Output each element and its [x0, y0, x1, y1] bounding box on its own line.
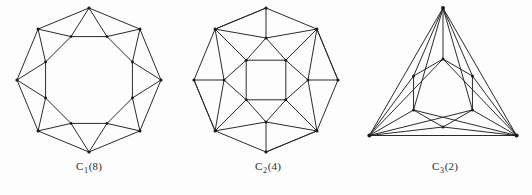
antiprism-edge [132, 80, 161, 98]
graph-vertex [515, 134, 519, 138]
antiprism-edge [89, 123, 107, 152]
graph-vertex [284, 59, 287, 62]
corner-fan-edge [443, 127, 517, 136]
figure-3-cell: C3(2) [358, 0, 532, 195]
figure-2-cell: C2(4) [178, 0, 358, 195]
middle-inner-edge [224, 60, 246, 80]
outer-octagon-edge [266, 8, 317, 29]
graph-vertex [264, 150, 267, 153]
antiprism-edge [38, 29, 71, 36]
outer-triangle-edge [369, 8, 443, 136]
graph-vertex [36, 27, 39, 30]
corner-long-fan-edge [443, 8, 472, 110]
figure-3-caption: C3(2) [358, 160, 532, 175]
middle-inner-edge [246, 100, 266, 122]
corner-spoke-edge [472, 110, 516, 136]
antiprism-edge [89, 8, 107, 37]
antiprism-edge [107, 123, 140, 130]
figure-1-graph [0, 0, 178, 160]
graph-vertex [87, 6, 90, 9]
corner-fan-edge [369, 127, 443, 136]
antiprism-edge [38, 29, 45, 62]
inner-hexagon-edge [414, 59, 443, 76]
inner-hexagon-edge [443, 59, 472, 76]
outer-octagon-edge [38, 8, 89, 29]
graph-vertex [213, 129, 216, 132]
corner-long-fan-edge [369, 59, 443, 136]
figure-2-graph [178, 0, 358, 160]
graph-vertex [284, 98, 287, 101]
corner-fan-edge [443, 8, 472, 76]
antiprism-edge [71, 123, 89, 152]
inner-octagon-edge [107, 98, 132, 123]
outer-octagon-edge [215, 131, 266, 152]
middle-inner-edge [286, 60, 308, 80]
antiprism-edge [107, 29, 140, 36]
graph-vertex [245, 98, 248, 101]
graph-vertex [131, 61, 134, 64]
graph-vertex [106, 122, 109, 125]
middle-inner-edge [224, 80, 246, 100]
inner-octagon-edge [107, 37, 132, 62]
figure-1-cell: C1(8) [0, 0, 178, 195]
antiprism-edge [17, 80, 46, 98]
graph-vertex [307, 79, 310, 82]
corner-long-fan-edge [414, 8, 443, 110]
antiprism-edge [17, 62, 46, 80]
figure-1-caption-count: (8) [89, 160, 102, 172]
graph-vertex [315, 129, 318, 132]
graph-vertex [159, 78, 162, 81]
outer-octagon-edge [140, 80, 161, 131]
figure-1-caption: C1(8) [0, 160, 178, 175]
graph-vertex [15, 78, 18, 81]
graph-vertex [138, 27, 141, 30]
graph-vertex [192, 78, 195, 81]
graph-vertex [336, 78, 339, 81]
band-edge [194, 80, 215, 131]
antiprism-edge [132, 29, 139, 62]
figure-3-caption-count: (2) [445, 160, 458, 172]
graph-vertex [471, 109, 474, 112]
corner-fan-edge [414, 8, 443, 76]
graph-vertex [265, 37, 268, 40]
band-edge [266, 131, 317, 152]
corner-long-fan-edge [443, 59, 517, 136]
graph-vertex [315, 27, 318, 30]
graph-vertex [264, 6, 267, 9]
outer-octagon-edge [38, 131, 89, 152]
graph-vertex [70, 122, 73, 125]
graph-vertex [223, 79, 226, 82]
middle-inner-edge [266, 38, 286, 60]
antiprism-edge [38, 123, 71, 130]
graph-vertex [412, 75, 415, 78]
middle-inner-edge [286, 80, 308, 100]
graph-vertex [412, 109, 415, 112]
middle-inner-edge [246, 38, 266, 60]
antiprism-edge [71, 8, 89, 37]
graph-vertex [265, 121, 268, 124]
outer-octagon-edge [140, 29, 161, 80]
outer-octagon-edge [17, 80, 38, 131]
antiprism-edge [132, 62, 161, 80]
graph-vertex [44, 97, 47, 100]
graph-vertex [471, 75, 474, 78]
inner-octagon-edge [46, 37, 71, 62]
figure-2-caption: C2(4) [178, 160, 358, 175]
antiprism-edge [38, 98, 45, 131]
graph-vertex [442, 126, 445, 129]
figure-3-graph [358, 0, 532, 160]
figure-2-caption-count: (4) [268, 160, 281, 172]
graph-vertex [367, 134, 371, 138]
graph-vertex [138, 129, 141, 132]
outer-octagon-edge [89, 131, 140, 152]
outer-octagon-edge [194, 29, 215, 80]
graph-vertex [44, 61, 47, 64]
outer-octagon-edge [317, 80, 338, 131]
graph-vertex [441, 6, 445, 10]
corner-spoke-edge [369, 110, 413, 136]
band-edge [215, 8, 266, 29]
graph-vertex [87, 150, 90, 153]
graph-vertex [213, 27, 216, 30]
outer-octagon-edge [17, 29, 38, 80]
outer-octagon-edge [89, 8, 140, 29]
